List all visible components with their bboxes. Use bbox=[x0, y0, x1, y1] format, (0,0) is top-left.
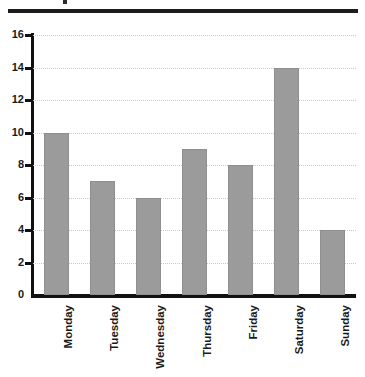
plot-area bbox=[33, 35, 356, 295]
y-axis-tick bbox=[25, 197, 32, 200]
bar bbox=[274, 68, 299, 296]
x-axis-tick-label: Saturday bbox=[293, 305, 306, 377]
y-axis-tick bbox=[25, 229, 32, 232]
y-axis-tick-label: 2 bbox=[0, 257, 24, 268]
x-axis-tick-label: Monday bbox=[62, 305, 75, 377]
y-axis-tick bbox=[25, 164, 32, 167]
y-axis-tick-label: 16 bbox=[0, 29, 24, 40]
bar bbox=[90, 181, 115, 295]
bar bbox=[182, 149, 207, 295]
bar bbox=[44, 133, 69, 296]
y-axis-tick-label: 0 bbox=[0, 289, 24, 300]
y-axis-tick-label: 10 bbox=[0, 127, 24, 138]
y-axis-tick bbox=[25, 67, 32, 70]
y-axis-tick bbox=[25, 99, 32, 102]
x-axis-tick-label: Wednesday bbox=[154, 305, 167, 377]
bar bbox=[320, 230, 345, 295]
y-axis-tick-label: 8 bbox=[0, 159, 24, 170]
y-axis-tick bbox=[25, 262, 32, 265]
y-axis-tick bbox=[25, 34, 32, 37]
y-axis-tick bbox=[25, 132, 32, 135]
bar bbox=[136, 198, 161, 296]
y-axis-tick-label: 6 bbox=[0, 192, 24, 203]
y-axis-tick-label: 4 bbox=[0, 224, 24, 235]
x-axis-tick-label: Thursday bbox=[201, 305, 214, 377]
y-axis-tick-label: 12 bbox=[0, 94, 24, 105]
x-axis-tick-label: Friday bbox=[247, 305, 260, 377]
bar bbox=[228, 165, 253, 295]
x-axis-tick-label: Sunday bbox=[339, 305, 352, 377]
bar-chart: 0246810121416 MondayTuesdayWednesdayThur… bbox=[0, 0, 365, 377]
x-axis-tick-label: Tuesday bbox=[108, 305, 121, 377]
y-axis-tick-label: 14 bbox=[0, 62, 24, 73]
